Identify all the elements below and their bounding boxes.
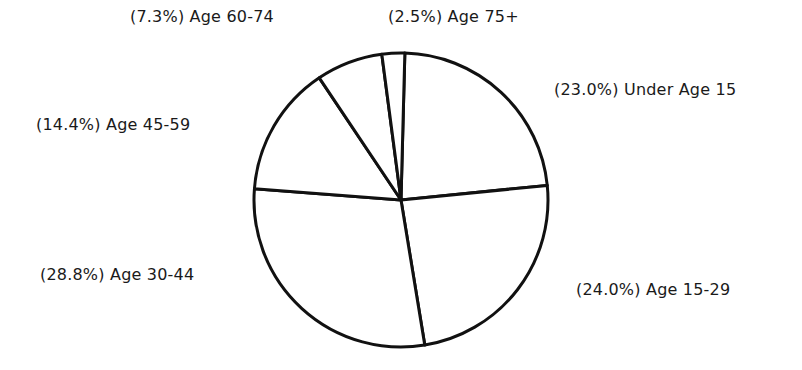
label-age-60-74: (7.3%) Age 60-74 [130,7,274,26]
pie-slice-age-15-29 [401,185,548,345]
pie-slice-age-30-44 [254,189,425,347]
pie-chart [0,0,802,370]
label-age-30-44: (28.8%) Age 30-44 [40,265,194,284]
label-age-75-plus: (2.5%) Age 75+ [388,7,519,26]
label-age-45-59: (14.4%) Age 45-59 [36,115,190,134]
pie-slice-under-age-15 [401,53,547,200]
label-age-15-29: (24.0%) Age 15-29 [576,280,730,299]
pie-slices [254,53,548,347]
label-under-age-15: (23.0%) Under Age 15 [554,80,736,99]
